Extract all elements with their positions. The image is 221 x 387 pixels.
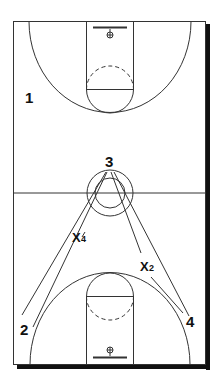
defender-line-x2 <box>111 172 141 253</box>
ft-circle-top-dashed <box>87 66 134 90</box>
ft-circle-bottom-solid <box>87 273 134 297</box>
cut-line-2-inner <box>33 172 107 327</box>
defender-x4-sub: 4 <box>81 234 86 244</box>
basketball-court-diagram: 1 3 2 4 X 4 X 2 <box>0 0 221 387</box>
player-4-label: 4 <box>186 313 195 330</box>
court-shadow-right <box>206 24 210 370</box>
player-3-label: 3 <box>105 153 113 170</box>
player-1-label: 1 <box>25 89 33 106</box>
defender-x2-sub: 2 <box>149 263 154 273</box>
player-2-label: 2 <box>20 321 28 338</box>
ft-circle-top-solid <box>87 90 134 114</box>
court-shadow-bottom <box>17 365 210 369</box>
ft-circle-bottom-dashed <box>87 297 134 320</box>
defender-x2-label: X <box>140 259 149 274</box>
pass-line-3-to-4 <box>114 172 189 316</box>
defender-x4-label: X <box>72 230 81 245</box>
